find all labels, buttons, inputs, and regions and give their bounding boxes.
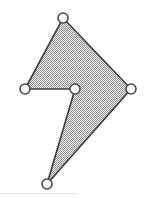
vertex-marker-top[interactable]	[58, 13, 68, 23]
vertex-marker-bottom[interactable]	[42, 179, 52, 189]
baseline-rule	[0, 193, 78, 194]
polygon-group	[25, 18, 131, 184]
polygon-figure-svg	[0, 0, 144, 198]
figure-canvas	[0, 0, 144, 198]
vertex-marker-middle[interactable]	[70, 84, 80, 94]
vertex-marker-right[interactable]	[126, 84, 136, 94]
vertex-marker-left[interactable]	[20, 84, 30, 94]
concave-arrow-polygon[interactable]	[25, 18, 131, 184]
